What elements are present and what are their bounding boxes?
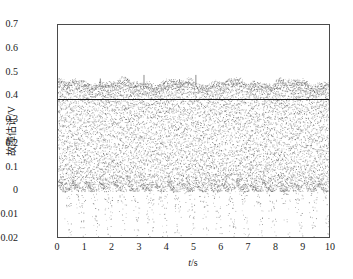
x-tick-mark (222, 237, 223, 238)
x-tick-label: 6 (218, 242, 223, 252)
y-tick-label: −0.01 (0, 209, 18, 219)
x-tick-mark (140, 237, 141, 238)
x-tick-mark-top (167, 24, 168, 25)
chart-figure: 0.70.60.50.40.30.20.10−0.01−0.02 0123456… (0, 0, 353, 279)
y-tick-label: 0.6 (6, 43, 19, 53)
x-tick-mark (167, 237, 168, 238)
x-tick-label: 9 (300, 242, 305, 252)
x-tick-label: 1 (82, 242, 87, 252)
y-tick-mark-right (329, 215, 330, 216)
x-tick-label: 3 (136, 242, 141, 252)
y-tick-label: 0.5 (6, 67, 19, 77)
y-tick-mark-right (329, 120, 330, 121)
y-tick-mark (57, 168, 58, 169)
x-tick-mark (276, 237, 277, 238)
y-tick-mark-right (329, 49, 330, 50)
x-tick-label: 4 (164, 242, 169, 252)
x-tick-mark-top (276, 24, 277, 25)
y-tick-mark (57, 96, 58, 97)
y-tick-label: 0.4 (6, 90, 19, 100)
y-tick-mark-right (329, 144, 330, 145)
x-axis-title: t/s (188, 257, 197, 268)
x-tick-label: 0 (55, 242, 60, 252)
y-tick-label: −0.02 (0, 233, 18, 243)
x-tick-mark (249, 237, 250, 238)
x-tick-mark-top (85, 24, 86, 25)
y-tick-label: 0 (13, 185, 18, 195)
x-tick-label: 5 (191, 242, 196, 252)
y-axis-title: 故障估计/V (3, 106, 18, 156)
y-tick-mark (57, 120, 58, 121)
x-tick-mark (304, 237, 305, 238)
x-tick-mark-top (195, 24, 196, 25)
x-tick-mark-top (222, 24, 223, 25)
x-tick-mark-top (304, 24, 305, 25)
y-tick-mark-right (329, 168, 330, 169)
x-tick-label: 8 (273, 242, 278, 252)
y-tick-label: 0.7 (6, 19, 19, 29)
x-tick-mark-top (113, 24, 114, 25)
y-tick-mark-right (329, 73, 330, 74)
y-tick-mark (57, 191, 58, 192)
x-tick-mark (85, 237, 86, 238)
y-tick-mark-right (329, 191, 330, 192)
y-tick-mark (57, 49, 58, 50)
y-tick-mark (57, 144, 58, 145)
x-tick-mark-top (140, 24, 141, 25)
x-tick-label: 2 (109, 242, 114, 252)
plot-area (57, 24, 330, 238)
signal-plot-canvas (58, 25, 330, 238)
y-tick-mark (57, 73, 58, 74)
x-tick-mark-top (249, 24, 250, 25)
y-tick-label: 0.1 (6, 162, 19, 172)
x-tick-label: 7 (246, 242, 251, 252)
x-tick-label: 10 (325, 242, 335, 252)
x-tick-mark (113, 237, 114, 238)
y-tick-mark (57, 215, 58, 216)
y-tick-mark-right (329, 96, 330, 97)
x-tick-mark (195, 237, 196, 238)
